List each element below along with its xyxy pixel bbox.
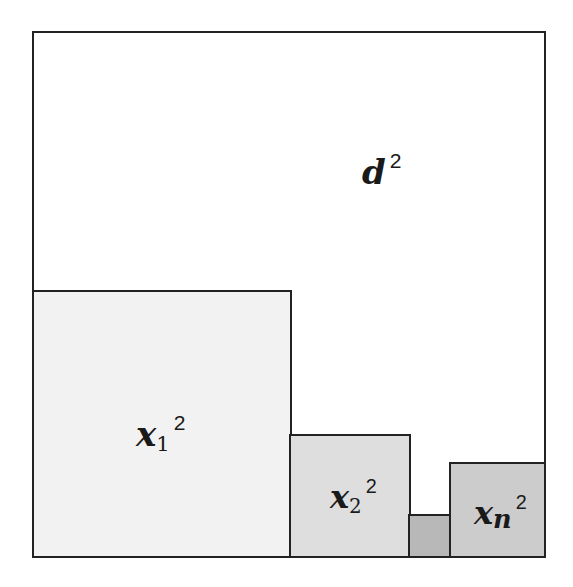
label-x2-squared: x22 — [330, 477, 377, 517]
label-d-squared: d2 — [362, 150, 402, 189]
label-xn-squared: xn2 — [474, 493, 527, 532]
label-x1-squared: x12 — [136, 412, 185, 454]
square-small — [408, 514, 452, 558]
